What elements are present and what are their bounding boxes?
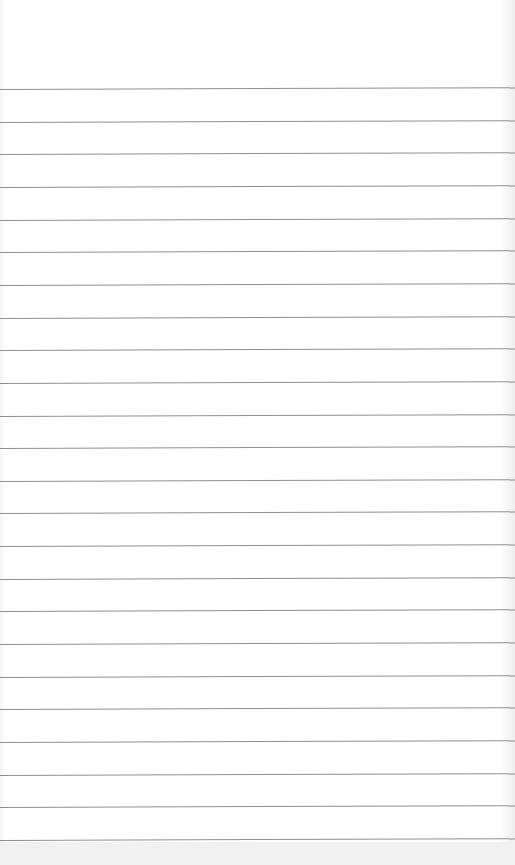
ruled-line-edge-mark	[509, 642, 515, 644]
ruled-line	[0, 250, 509, 253]
ruled-line-edge-mark	[509, 577, 515, 579]
ruled-line	[0, 511, 509, 514]
ruled-line-edge-mark	[509, 805, 515, 807]
ruled-line-edge-mark	[509, 348, 515, 350]
ruled-line-edge-mark	[509, 511, 515, 513]
ruled-line-edge-mark	[509, 740, 515, 742]
ruled-line-edge-mark	[509, 87, 515, 89]
ruled-line	[0, 805, 509, 808]
ruled-line-edge-mark	[509, 152, 515, 154]
ruled-line-edge-mark	[509, 316, 515, 318]
ruled-line-edge-mark	[509, 707, 515, 709]
lined-paper-page	[0, 0, 515, 865]
ruled-line	[0, 446, 509, 449]
ruled-line	[0, 609, 509, 612]
ruled-line-edge-mark	[509, 185, 515, 187]
ruled-line	[0, 414, 509, 417]
ruled-line-edge-mark	[509, 838, 515, 840]
ruled-line-edge-mark	[509, 120, 515, 122]
bottom-edge-shade	[0, 842, 515, 865]
ruled-line-edge-mark	[509, 544, 515, 546]
ruled-line	[0, 152, 509, 155]
ruled-line-edge-mark	[509, 414, 515, 416]
ruled-line	[0, 218, 509, 221]
ruled-line-edge-mark	[509, 609, 515, 611]
ruled-line	[0, 348, 509, 351]
ruled-line-edge-mark	[509, 446, 515, 448]
ruled-line	[0, 87, 509, 90]
ruled-line	[0, 120, 509, 123]
ruled-line	[0, 316, 509, 319]
ruled-line	[0, 675, 509, 678]
ruled-line	[0, 381, 509, 384]
ruled-line-edge-mark	[509, 218, 515, 220]
ruled-line	[0, 544, 509, 547]
ruled-line-edge-mark	[509, 479, 515, 481]
ruled-line-edge-mark	[509, 250, 515, 252]
ruled-line-edge-mark	[509, 773, 515, 775]
ruled-line	[0, 577, 509, 580]
ruled-line	[0, 479, 509, 482]
ruled-line	[0, 838, 509, 841]
ruled-line	[0, 740, 509, 743]
ruled-line-edge-mark	[509, 283, 515, 285]
ruled-line	[0, 773, 509, 776]
ruled-line	[0, 642, 509, 645]
ruled-line	[0, 283, 509, 286]
ruled-line-edge-mark	[509, 675, 515, 677]
ruled-line	[0, 185, 509, 188]
ruled-line	[0, 707, 509, 710]
ruled-line-edge-mark	[509, 381, 515, 383]
